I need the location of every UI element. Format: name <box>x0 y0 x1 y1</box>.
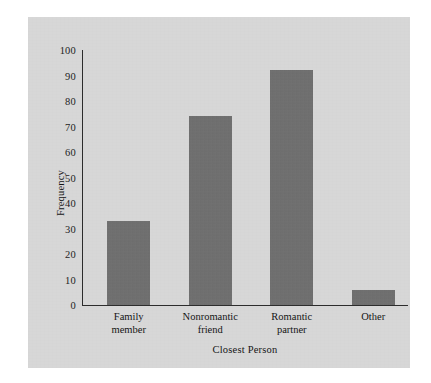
bar <box>107 221 150 305</box>
y-tick-label: 30 <box>65 223 76 234</box>
x-axis-line <box>82 305 408 306</box>
y-axis-line <box>82 50 83 306</box>
y-tick-label: 0 <box>71 300 76 311</box>
y-tick-label: 70 <box>65 121 76 132</box>
bar-chart-figure: Frequency 0102030405060708090100 Family … <box>0 0 431 383</box>
bar <box>352 290 395 305</box>
bar <box>270 70 313 305</box>
bar <box>189 116 232 305</box>
y-tick-label: 10 <box>65 274 76 285</box>
x-tick-label: Romantic partner <box>271 311 312 336</box>
y-tick-label: 50 <box>65 172 76 183</box>
plot-area: 0102030405060708090100 Family memberNonr… <box>82 50 408 305</box>
x-tick-label: Nonromantic friend <box>183 311 238 336</box>
y-tick-label: 80 <box>65 96 76 107</box>
x-tick-label: Family member <box>112 311 146 336</box>
y-tick-label: 90 <box>65 70 76 81</box>
y-tick-label: 100 <box>60 45 76 56</box>
y-tick-label: 20 <box>65 249 76 260</box>
x-tick-label: Other <box>361 311 385 324</box>
y-tick-label: 40 <box>65 198 76 209</box>
chart-panel: Frequency 0102030405060708090100 Family … <box>28 17 410 368</box>
y-axis-title: Frequency <box>55 169 66 215</box>
x-axis-title: Closest Person <box>82 344 408 355</box>
y-tick-label: 60 <box>65 147 76 158</box>
